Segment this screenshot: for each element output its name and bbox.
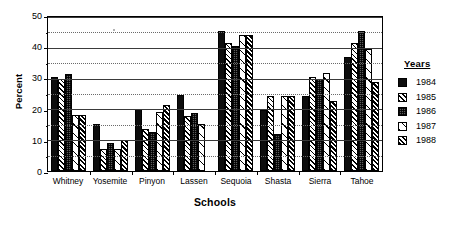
bar[interactable] [156,112,163,171]
y-axis-tick-label: 10 [18,136,42,145]
legend-item[interactable]: 1984 [398,78,460,87]
x-axis-tick-label: Sequoia [215,176,257,186]
bar[interactable] [330,101,337,171]
x-tickmark [132,171,133,175]
legend-swatch [398,93,407,102]
y-axis-tick-labels: 01020304050 [18,16,42,172]
legend-label: 1987 [416,122,436,131]
x-axis-tick-label: Yosemite [89,176,131,186]
x-axis-tick-label: Whitney [47,176,89,186]
x-axis-tick-label: Pinyon [131,176,173,186]
x-axis-tick-label: Shasta [257,176,299,186]
bar[interactable] [107,143,114,171]
gridline-minor [48,125,382,126]
gridline-major [48,48,382,49]
plot-area [47,16,383,172]
bar[interactable] [177,95,184,171]
x-axis-tick-labels: WhitneyYosemitePinyonLassenSequoiaShasta… [47,176,383,186]
bar[interactable] [358,31,365,171]
x-tickmark [340,171,341,175]
legend-label: 1986 [416,107,436,116]
y-tickmark-major [44,79,48,80]
legend-label: 1985 [416,93,436,102]
y-tickmark-major [44,142,48,143]
legend-item[interactable]: 1987 [398,122,460,131]
y-tickmark-major [44,17,48,18]
x-axis-tick-label: Lassen [173,176,215,186]
bar[interactable] [372,82,379,171]
bar[interactable] [274,134,281,171]
x-axis-tick-label: Sierra [299,176,341,186]
bar[interactable] [93,124,100,171]
bar[interactable] [288,96,295,171]
legend: Years 19841985198619871988 [398,58,460,151]
x-tickmark [173,171,174,175]
bar[interactable] [191,113,198,171]
y-axis-tick-label: 20 [18,105,42,114]
gridline-major [48,109,382,110]
legend-item-list: 19841985198619871988 [398,78,460,145]
bar[interactable] [302,96,309,171]
legend-item[interactable]: 1986 [398,107,460,116]
legend-swatch [398,107,407,116]
bar[interactable] [163,105,170,171]
legend-label: 1984 [416,78,436,87]
gridline-minor [48,94,382,95]
y-tickmark-minor [46,33,49,34]
legend-swatch [398,78,407,87]
x-tickmark [215,171,216,175]
x-axis-tick-label: Tahoe [341,176,383,186]
y-tickmark-minor [46,126,49,127]
y-axis-tick-label: 0 [18,168,42,177]
y-axis-tick-label: 30 [18,74,42,83]
y-tickmark-major [44,173,48,174]
bar[interactable] [281,96,288,171]
y-tickmark-major [44,48,48,49]
bar[interactable] [114,149,121,171]
bar[interactable] [344,57,351,171]
gridline-minor [48,156,382,157]
legend-item[interactable]: 1988 [398,136,460,145]
bar[interactable] [72,115,79,171]
gridline-minor [48,32,382,33]
x-tickmark [257,171,258,175]
bar-chart: Percent 01020304050 WhitneyYosemitePinyo… [0,0,460,228]
legend-item[interactable]: 1985 [398,93,460,102]
gridline-minor [48,63,382,64]
legend-title: Years [404,58,460,69]
plot-inner [48,17,382,171]
bar[interactable] [142,129,149,171]
gridline-major [48,140,382,141]
legend-swatch [398,136,407,145]
gridline-major [48,17,382,18]
gridline-major [48,79,382,80]
x-tickmark [299,171,300,175]
legend-swatch [398,122,407,131]
legend-label: 1988 [416,136,436,145]
bar[interactable] [239,35,246,171]
bar[interactable] [149,132,156,171]
y-tickmark-major [44,111,48,112]
x-axis-title: Schools [47,196,383,208]
y-axis-tick-label: 40 [18,43,42,52]
bar[interactable] [79,115,86,171]
x-tickmark [90,171,91,175]
y-tickmark-minor [46,157,49,158]
bar[interactable] [218,31,225,171]
bar[interactable] [267,96,274,171]
bar[interactable] [100,149,107,171]
bar[interactable] [246,35,253,171]
y-tickmark-minor [46,64,49,65]
y-tickmark-minor [46,95,49,96]
y-axis-tick-label: 50 [18,12,42,21]
bar[interactable] [198,124,205,171]
scan-speck [113,29,115,31]
